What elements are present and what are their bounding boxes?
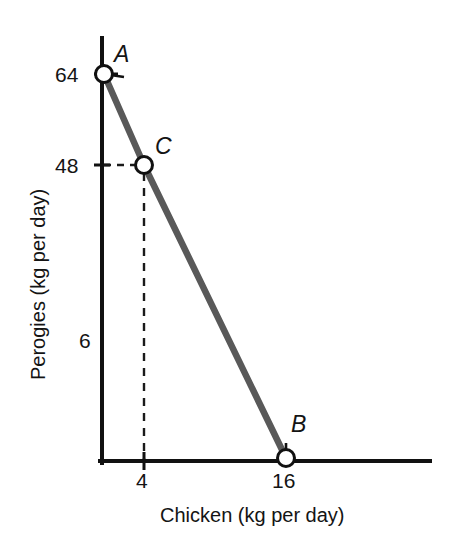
production-possibilities-chart: 64 48 6 4 16 A C B Chicken (kg per day) … — [0, 0, 467, 546]
y-axis-tick-label-64: 64 — [55, 64, 78, 85]
y-axis-title: Perogies (kg per day) — [28, 189, 48, 380]
frontier-line — [104, 74, 286, 458]
point-marker-c[interactable] — [136, 157, 153, 174]
x-axis-title: Chicken (kg per day) — [160, 505, 345, 525]
point-label-b: B — [291, 413, 306, 436]
point-marker-b[interactable] — [278, 450, 295, 467]
y-axis-tick-label-6: 6 — [79, 330, 91, 351]
y-axis-tick-label-48: 48 — [55, 155, 78, 176]
point-label-c: C — [155, 135, 172, 158]
x-axis-tick-label-16: 16 — [272, 470, 295, 491]
x-axis-tick-label-4: 4 — [136, 470, 148, 491]
point-marker-a[interactable] — [96, 66, 113, 83]
point-label-a: A — [114, 43, 129, 66]
